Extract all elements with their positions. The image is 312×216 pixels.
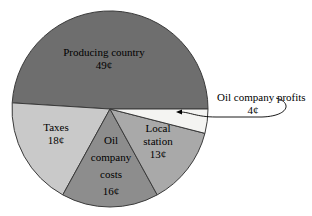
pie-slice-value-producing-country: 49¢ xyxy=(96,59,113,71)
pie-slice-label-oil-company-profits: Oil company profits xyxy=(217,91,306,103)
pie-slice-label-local-station-line2: station xyxy=(143,135,173,147)
pie-slice-value-local-station: 13¢ xyxy=(150,148,167,160)
pie-chart-figure: Producing country 49¢ Taxes 18¢ Oil comp… xyxy=(0,0,312,216)
pie-slice-value-oil-company-costs: 16¢ xyxy=(103,185,120,197)
pie-slice-value-oil-company-profits: 4¢ xyxy=(248,104,259,116)
pie-slice-label-producing-country: Producing country xyxy=(63,46,145,58)
pie-slice-value-taxes: 18¢ xyxy=(48,134,65,146)
pie-slice-label-local-station-line1: Local xyxy=(145,122,170,134)
pie-slice-label-oil-company-costs-line3: costs xyxy=(100,168,122,180)
pie-chart-canvas: Producing country 49¢ Taxes 18¢ Oil comp… xyxy=(0,0,312,216)
pie-slice-label-oil-company-costs-line2: company xyxy=(91,151,132,163)
pie-slice-label-oil-company-costs-line1: Oil xyxy=(104,134,118,146)
pie-slice-label-taxes: Taxes xyxy=(43,121,69,133)
